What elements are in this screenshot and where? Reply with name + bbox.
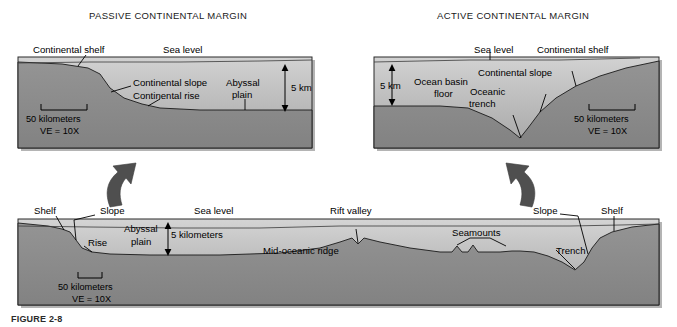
label-ocean-basin-line1: Ocean basin <box>414 76 468 87</box>
label-oceanic-trench-line1: Oceanic <box>470 86 505 97</box>
label-passive-scale-distance: 50 kilometers <box>26 114 81 124</box>
label-trench: Trench <box>556 245 586 256</box>
label-profile-scale-distance: 50 kilometers <box>58 282 113 292</box>
label-profile-shelf-left: Shelf <box>34 205 56 216</box>
label-abyssal-plain-line2: plain <box>232 89 252 100</box>
passive-margin-panel: Continental shelf Sea level Continental … <box>18 44 315 151</box>
label-profile-shelf-right: Shelf <box>601 205 623 216</box>
label-mid-oceanic-ridge: Mid-oceanic ridge <box>263 245 339 256</box>
arrow-to-active-panel <box>506 163 535 207</box>
label-abyssal-plain-line1: Abyssal <box>226 77 260 88</box>
label-oceanic-trench-line2: trench <box>469 98 496 109</box>
label-ocean-basin-line2: floor <box>434 88 453 99</box>
label-profile-depth: 5 kilometers <box>171 229 223 240</box>
label-sea-level: Sea level <box>163 44 202 55</box>
label-active-sea-level: Sea level <box>474 44 513 55</box>
label-profile-sea-level: Sea level <box>194 205 233 216</box>
label-passive-scale-exaggeration: VE = 10X <box>40 126 79 136</box>
label-seamounts: Seamounts <box>452 227 501 238</box>
label-active-scale-exaggeration: VE = 10X <box>588 126 627 136</box>
label-rift-valley: Rift valley <box>330 205 372 216</box>
label-continental-shelf: Continental shelf <box>33 44 105 55</box>
label-active-continental-shelf: Continental shelf <box>537 44 609 55</box>
label-profile-abyssal-line1: Abyssal <box>124 223 158 234</box>
arrow-to-passive-panel <box>107 163 136 207</box>
label-continental-rise: Continental rise <box>133 90 200 101</box>
label-profile-slope-left: Slope <box>100 205 125 216</box>
ocean-profile-panel: Shelf Slope Rise Abyssal plain Sea level… <box>18 205 662 308</box>
figure-caption: FIGURE 2-8 <box>11 314 63 324</box>
label-profile-abyssal-line2: plain <box>131 236 151 247</box>
label-profile-rise: Rise <box>88 237 107 248</box>
ocean-margin-diagram: Continental shelf Sea level Continental … <box>0 0 677 327</box>
label-profile-slope-right: Slope <box>533 205 558 216</box>
label-profile-scale-exaggeration: VE = 10X <box>72 294 111 304</box>
label-active-scale-distance: 50 kilometers <box>574 114 629 124</box>
active-margin-panel: Sea level Continental shelf Continental … <box>374 44 662 151</box>
label-active-depth: 5 km <box>380 80 401 91</box>
figure-canvas: PASSIVE CONTINENTAL MARGIN ACTIVE CONTIN… <box>0 0 677 327</box>
label-passive-depth: 5 km <box>291 82 312 93</box>
label-active-continental-slope: Continental slope <box>478 67 552 78</box>
label-continental-slope: Continental slope <box>133 77 207 88</box>
